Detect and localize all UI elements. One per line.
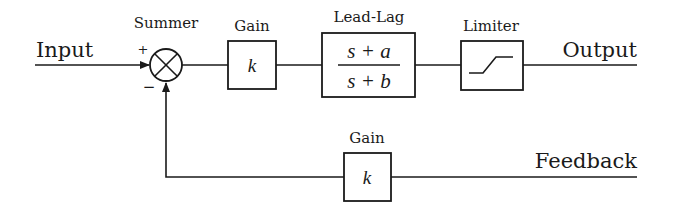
summer-plus-sign: +: [138, 42, 149, 57]
block-diagram: Input Summer + − Gain k Lead-Lag s + a s…: [0, 0, 673, 223]
forward-gain-value: k: [248, 55, 257, 76]
lead-lag-numerator: s + a: [347, 39, 390, 63]
lead-lag-title: Lead-Lag: [334, 8, 405, 26]
output-label: Output: [562, 38, 637, 62]
summer-minus-sign: −: [143, 78, 156, 96]
summing-junction-icon: [150, 49, 182, 81]
limiter-title: Limiter: [463, 17, 520, 35]
output-signal: Output: [523, 38, 638, 65]
feedback-path: Feedback Gain k: [166, 83, 637, 201]
forward-gain-title: Gain: [234, 17, 270, 35]
feedback-label: Feedback: [535, 149, 637, 173]
summer-label: Summer: [134, 14, 199, 32]
input-label: Input: [36, 38, 94, 62]
input-signal: Input: [35, 38, 149, 65]
limiter-block: Limiter: [461, 17, 523, 90]
feedback-gain-title: Gain: [349, 129, 385, 147]
limiter-box: [461, 41, 523, 90]
lead-lag-denominator: s + b: [347, 69, 390, 93]
forward-gain-block: Gain k: [228, 17, 276, 89]
lead-lag-block: Lead-Lag s + a s + b: [322, 8, 415, 97]
feedback-gain-value: k: [363, 167, 372, 188]
feedback-line-left: [166, 83, 344, 177]
